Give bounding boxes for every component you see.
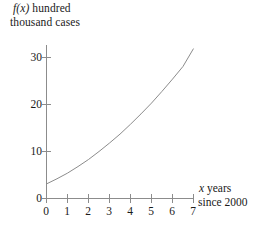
axes	[46, 45, 193, 199]
chart-canvas	[0, 0, 275, 229]
data-curve-line	[47, 49, 194, 184]
chart-figure: f(x) hundred thousand cases x years sinc…	[0, 0, 275, 229]
